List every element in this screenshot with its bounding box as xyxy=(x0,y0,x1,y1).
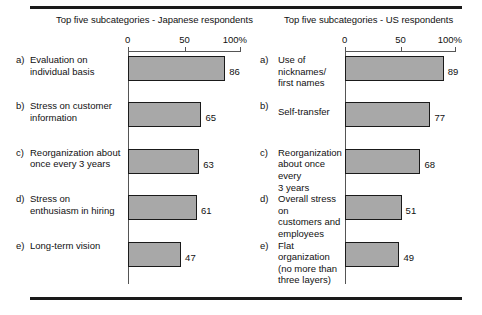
bar-track: 51 xyxy=(345,195,456,220)
row-label-line: Stress on xyxy=(30,193,126,205)
bar xyxy=(128,195,197,220)
bar-value-label: 61 xyxy=(201,205,212,216)
row-letter: a) xyxy=(260,54,268,65)
bar-value-label: 68 xyxy=(424,159,435,170)
row-label-line: Reorganization xyxy=(278,147,344,159)
chart-panel-us: Top five subcategories - US respondents … xyxy=(252,12,482,292)
bar-value-label: 51 xyxy=(406,205,417,216)
bar-track: 47 xyxy=(128,242,241,267)
bar-value-label: 63 xyxy=(203,159,214,170)
bar-row: c) Reorganization about once every 3 yea… xyxy=(252,145,482,191)
bar-value-label: 89 xyxy=(448,66,459,77)
plot-area-us: a) Use of nicknames/ first names 89 b) S… xyxy=(252,52,482,288)
bar xyxy=(128,56,225,81)
row-label: Self-transfer xyxy=(278,106,344,118)
tick-label-100: 100% xyxy=(438,34,462,45)
bar xyxy=(345,149,420,174)
charts-container: Top five subcategories - Japanese respon… xyxy=(0,12,482,292)
bar-row: a) Evaluation on individual basis 86 xyxy=(0,52,252,98)
row-label-line: three layers) xyxy=(278,274,344,286)
chart-panel-japanese: Top five subcategories - Japanese respon… xyxy=(0,12,252,292)
row-letter: c) xyxy=(16,147,24,158)
row-label-line: Evaluation on xyxy=(30,54,126,66)
bar-row: e) Flat organization (no more than three… xyxy=(252,238,482,284)
bar xyxy=(345,195,402,220)
bar-row: b) Self-transfer 77 xyxy=(252,98,482,144)
row-label: Evaluation on individual basis xyxy=(30,54,126,77)
bar xyxy=(345,242,399,267)
tick-label-0: 0 xyxy=(125,34,130,45)
row-label: Use of nicknames/ first names xyxy=(278,54,344,89)
bar xyxy=(345,102,430,127)
row-label-line: about once every xyxy=(278,158,344,181)
row-label-line: information xyxy=(30,112,126,124)
bar-row: d) Overall stress on customers and emplo… xyxy=(252,191,482,237)
row-label-line: once every 3 years xyxy=(30,158,126,170)
bar-value-label: 49 xyxy=(403,252,414,263)
row-label: Flat organization (no more than three la… xyxy=(278,240,344,286)
tick-label-50: 50 xyxy=(395,34,406,45)
bar-value-label: 47 xyxy=(185,252,196,263)
row-letter: a) xyxy=(16,54,24,65)
row-label-line: Flat organization xyxy=(278,240,344,263)
bar-track: 63 xyxy=(128,149,241,174)
top-rule xyxy=(30,6,462,9)
tick-label-50: 50 xyxy=(179,34,190,45)
plot-area-japanese: a) Evaluation on individual basis 86 b) … xyxy=(0,52,252,288)
bar-value-label: 86 xyxy=(229,66,240,77)
row-label-line: individual basis xyxy=(30,66,126,78)
bar-row: c) Reorganization about once every 3 yea… xyxy=(0,145,252,191)
chart-figure: Top five subcategories - Japanese respon… xyxy=(0,0,482,315)
row-letter: b) xyxy=(16,100,24,111)
bar-row: a) Use of nicknames/ first names 89 xyxy=(252,52,482,98)
row-label-line: first names xyxy=(278,77,344,89)
row-label: Long-term vision xyxy=(30,240,126,252)
bar-track: 77 xyxy=(345,102,456,127)
bar xyxy=(128,102,201,127)
chart-title-japanese: Top five subcategories - Japanese respon… xyxy=(56,14,253,25)
bar-value-label: 77 xyxy=(434,112,445,123)
row-label-line: Stress on customer xyxy=(30,100,126,112)
bar-value-label: 65 xyxy=(205,112,216,123)
bar xyxy=(345,56,444,81)
bar-track: 65 xyxy=(128,102,241,127)
row-label-line: enthusiasm in hiring xyxy=(30,205,126,217)
row-letter: d) xyxy=(260,193,268,204)
row-label-line: Use of nicknames/ xyxy=(278,54,344,77)
bar-row: d) Stress on enthusiasm in hiring 61 xyxy=(0,191,252,237)
bar-track: 61 xyxy=(128,195,241,220)
row-letter: c) xyxy=(260,147,268,158)
x-axis-japanese: 0 50 100% xyxy=(128,34,241,52)
bar xyxy=(128,149,199,174)
bar-track: 49 xyxy=(345,242,456,267)
bar-track: 89 xyxy=(345,56,456,81)
bar-row: b) Stress on customer information 65 xyxy=(0,98,252,144)
tick-label-100: 100% xyxy=(223,34,247,45)
tick-label-0: 0 xyxy=(342,34,347,45)
row-label-line: customers and xyxy=(278,216,344,228)
chart-title-us: Top five subcategories - US respondents xyxy=(284,14,453,25)
row-label: Overall stress on customers and employee… xyxy=(278,193,344,239)
row-label: Stress on enthusiasm in hiring xyxy=(30,193,126,216)
row-label: Stress on customer information xyxy=(30,100,126,123)
row-label: Reorganization about once every 3 years xyxy=(30,147,126,170)
x-axis-us: 0 50 100% xyxy=(345,34,456,52)
row-label-line: Self-transfer xyxy=(278,106,344,118)
row-label-line: Reorganization about xyxy=(30,147,126,159)
bar-track: 68 xyxy=(345,149,456,174)
row-letter: d) xyxy=(16,193,24,204)
row-letter: e) xyxy=(260,240,268,251)
row-label: Reorganization about once every 3 years xyxy=(278,147,344,193)
bar-row: e) Long-term vision 47 xyxy=(0,238,252,284)
row-label-line: Long-term vision xyxy=(30,240,126,252)
bar xyxy=(128,242,181,267)
bottom-rule xyxy=(30,297,462,300)
bar-track: 86 xyxy=(128,56,241,81)
row-label-line: Overall stress on xyxy=(278,193,344,216)
row-letter: b) xyxy=(260,100,268,111)
row-letter: e) xyxy=(16,240,24,251)
row-label-line: (no more than xyxy=(278,263,344,275)
